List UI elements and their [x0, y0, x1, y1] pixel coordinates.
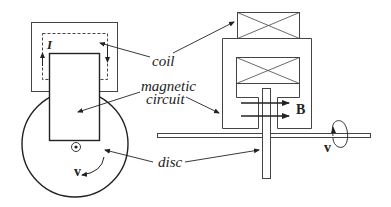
disc-side: [263, 89, 271, 179]
front-view: [22, 23, 153, 198]
diagram-drawing: [0, 0, 391, 207]
symbol-velocity-front: v: [74, 165, 81, 179]
label-coil: coil: [152, 54, 175, 69]
diagram-canvas: coil magnetic circuit disc I v B v: [0, 0, 391, 207]
magnetic-circuit-front: [50, 54, 100, 141]
side-view: [158, 13, 371, 179]
label-circuit: circuit: [146, 92, 185, 107]
symbol-current: I: [47, 38, 52, 51]
label-disc: disc: [158, 155, 182, 170]
leader-magnetic-side: [186, 97, 219, 113]
leader-disc-side: [185, 150, 259, 162]
symbol-field: B: [296, 103, 305, 117]
symbol-velocity-side: v: [324, 141, 331, 155]
